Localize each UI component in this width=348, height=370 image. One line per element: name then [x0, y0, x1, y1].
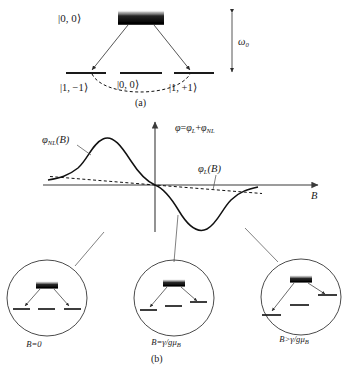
decay-arrow-left-icon [92, 25, 128, 70]
leader-to-inset-2 [174, 215, 178, 262]
leader-to-inset-3 [245, 228, 278, 262]
inset-1-circle [7, 260, 87, 336]
nonlinear-curve-leader-icon [77, 145, 91, 155]
panel-b: B φ=φL+φNL φNL(B) φL(B) [7, 122, 341, 365]
sublevel-zero-label: |0, 0⟩ [117, 79, 139, 90]
inset-1-arrow-left-icon [25, 289, 40, 306]
inset-2-circle [134, 260, 214, 336]
linear-curve-leader-icon [213, 175, 216, 190]
inset-3-arrow-left-icon [272, 283, 294, 311]
inset-3-excited-level-edge [290, 281, 312, 283]
leader-to-inset-1 [75, 232, 104, 266]
inset-3-circle [261, 259, 341, 335]
inset-1-excited-level-edge [36, 287, 58, 289]
decay-arrow-right-icon [154, 25, 190, 70]
inset-2-excited-level [163, 279, 185, 286]
sublevel-plus-one-label: |1, +1⟩ [169, 82, 197, 93]
inset-3-label: B>γ/gμB [279, 334, 308, 345]
y-axis-label: φ=φL+φNL [175, 122, 215, 134]
excited-state-ket-label: |0, 0⟩ [58, 12, 81, 24]
excited-level-broadened [118, 10, 164, 25]
inset-zero-field: B=0 [7, 260, 87, 349]
panel-b-caption: (b) [151, 353, 163, 365]
inset-high-field: B>γ/gμB [261, 259, 341, 345]
panel-a: |0, 0⟩ |1, −1⟩ |0, 0⟩ |1, +1⟩ ω0 (a) [58, 10, 249, 109]
nonlinear-curve-label: φNL(B) [42, 134, 70, 146]
x-axis-label: B [311, 190, 318, 201]
inset-1-arrow-right-icon [54, 289, 69, 306]
inset-resonant-field: B=γ/gμB [134, 260, 214, 348]
omega-zero-label: ω0 [238, 36, 249, 48]
panel-a-caption: (a) [135, 97, 146, 109]
inset-2-arrow-right-icon [181, 287, 197, 301]
physics-figure-svg: |0, 0⟩ |1, −1⟩ |0, 0⟩ |1, +1⟩ ω0 (a) B [0, 0, 348, 370]
inset-3-arrow-right-icon [308, 283, 325, 294]
inset-3-excited-level [290, 275, 312, 282]
nonlinear-phase-curve [48, 138, 258, 231]
inset-2-label: B=γ/gμB [151, 337, 180, 348]
figure-root: |0, 0⟩ |1, −1⟩ |0, 0⟩ |1, +1⟩ ω0 (a) B [0, 0, 348, 370]
linear-curve-label: φL(B) [198, 163, 221, 175]
inset-1-excited-level [36, 281, 58, 288]
inset-1-label: B=0 [26, 339, 42, 349]
sublevel-minus-one-label: |1, −1⟩ [60, 82, 88, 93]
inset-2-excited-level-edge [163, 285, 185, 287]
inset-2-arrow-left-icon [150, 287, 167, 307]
